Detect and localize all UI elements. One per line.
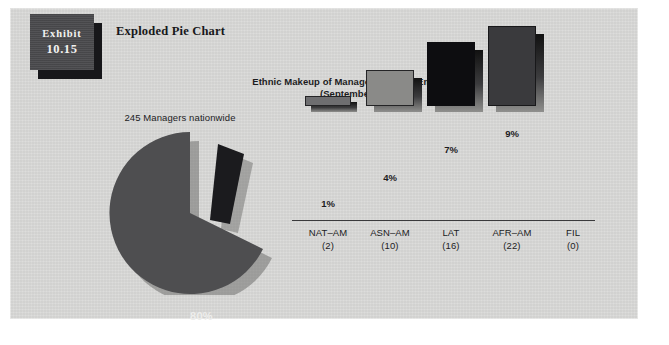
- pie-annotation: 245 Managers nationwide: [95, 112, 265, 123]
- category-label-lat: LAT (16): [418, 226, 484, 252]
- category-count-fil: (0): [540, 239, 606, 252]
- bar-nat-am-value: 1%: [305, 198, 351, 209]
- axis-baseline: [292, 220, 595, 221]
- category-count-afr-am: (22): [479, 239, 545, 252]
- exhibit-badge-word: Exhibit: [42, 29, 82, 40]
- bar-lat: [427, 42, 475, 106]
- category-label-asn-am: ASN–AM (10): [357, 226, 423, 252]
- category-name-nat-am: NAT–AM: [295, 226, 361, 239]
- bar-nat-am-body: [305, 96, 351, 106]
- category-count-nat-am: (2): [295, 239, 361, 252]
- category-label-nat-am: NAT–AM (2): [295, 226, 361, 252]
- category-count-asn-am: (10): [357, 239, 423, 252]
- category-name-afr-am: AFR–AM: [479, 226, 545, 239]
- category-name-lat: LAT: [418, 226, 484, 239]
- bar-afr-am: [488, 26, 536, 106]
- bar-asn-am-value: 4%: [366, 172, 414, 183]
- bar-nat-am: [305, 96, 351, 106]
- pie-percent-label: 80%: [190, 310, 213, 322]
- category-name-asn-am: ASN–AM: [357, 226, 423, 239]
- exhibit-figure: Exhibit 10.15 Exploded Pie Chart Ethnic …: [0, 0, 669, 345]
- bar-asn-am: [366, 70, 414, 106]
- bar-lat-body: [427, 42, 475, 106]
- category-label-afr-am: AFR–AM (22): [479, 226, 545, 252]
- category-name-fil: FIL: [540, 226, 606, 239]
- pie-chart: 80% All other (195): [94, 130, 304, 295]
- chart-area: Ethnic Makeup of Managerial–Level Employ…: [10, 8, 638, 319]
- bar-afr-am-value: 9%: [488, 128, 536, 139]
- bar-lat-value: 7%: [427, 144, 475, 155]
- category-count-lat: (16): [418, 239, 484, 252]
- bar-afr-am-body: [488, 26, 536, 106]
- bar-asn-am-body: [366, 70, 414, 106]
- exhibit-badge-number: 10.15: [46, 43, 77, 56]
- pie-svg: [94, 130, 304, 295]
- category-label-fil: FIL (0): [540, 226, 606, 252]
